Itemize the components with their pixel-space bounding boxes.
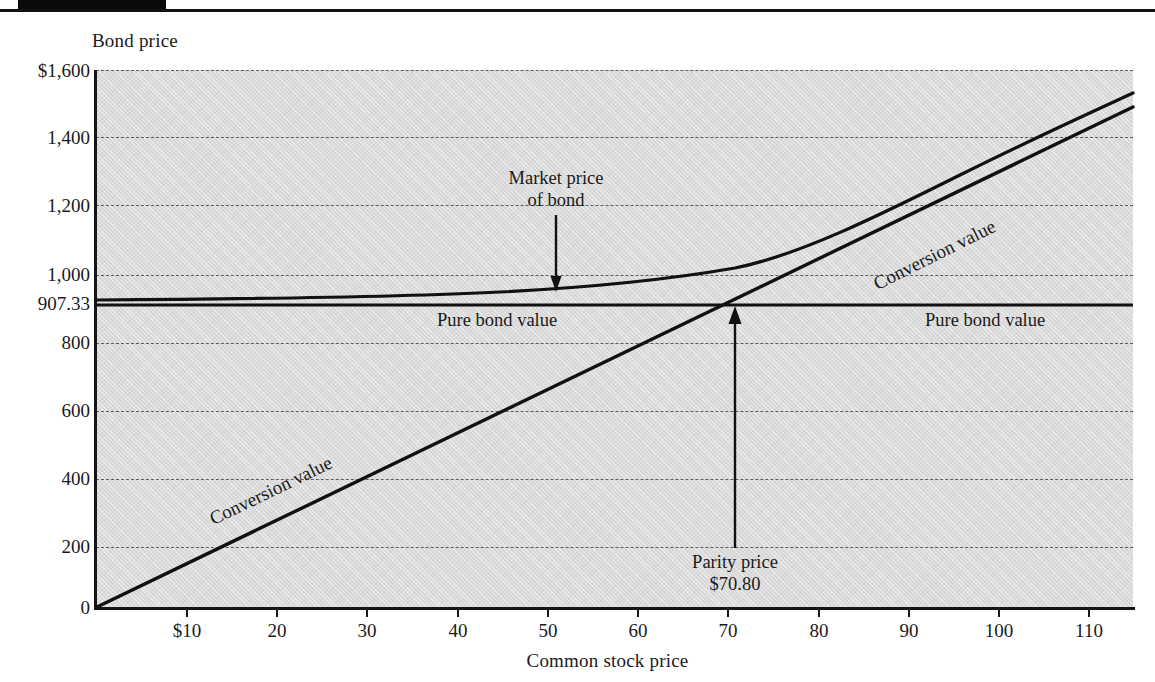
gridline-400 bbox=[96, 479, 1133, 480]
y-tick-label-600: 600 bbox=[4, 400, 90, 422]
x-tick-60 bbox=[637, 608, 639, 617]
x-tick-40 bbox=[457, 608, 459, 617]
gridline-1000 bbox=[96, 275, 1133, 276]
y-axis-title: Bond price bbox=[92, 30, 178, 52]
market-price-annotation-line1: Market price bbox=[486, 168, 626, 190]
x-tick-20 bbox=[276, 608, 278, 617]
x-tick-10 bbox=[186, 608, 188, 617]
y-axis-line bbox=[94, 70, 97, 610]
plot-area bbox=[96, 70, 1133, 608]
x-tick-label-60: 60 bbox=[608, 620, 668, 642]
y-tick-label-1200: 1,200 bbox=[4, 195, 90, 217]
x-axis-title-text: Common stock price bbox=[527, 650, 689, 671]
parity-price-annotation: Parity price $70.80 bbox=[664, 552, 806, 596]
x-tick-50 bbox=[547, 608, 549, 617]
x-tick-label-30: 30 bbox=[337, 620, 397, 642]
market-price-annotation: Market price of bond bbox=[486, 168, 626, 212]
y-tick-label-0: 0 bbox=[4, 597, 90, 619]
y-tick-label-800: 800 bbox=[4, 332, 90, 354]
x-tick-100 bbox=[998, 608, 1000, 617]
gridline-200 bbox=[96, 547, 1133, 548]
x-tick-90 bbox=[908, 608, 910, 617]
x-tick-label-20: 20 bbox=[247, 620, 307, 642]
pure-bond-value-label-right: Pure bond value bbox=[925, 310, 1045, 332]
x-tick-label-10: $10 bbox=[157, 620, 217, 642]
gridline-1600 bbox=[96, 70, 1133, 71]
x-tick-label-100: 100 bbox=[969, 620, 1029, 642]
y-tick-label-907-33: 907.33 bbox=[4, 293, 90, 315]
y-tick-label-1600: $1,600 bbox=[4, 60, 90, 82]
y-tick-label-1400: 1,400 bbox=[4, 127, 90, 149]
x-tick-80 bbox=[818, 608, 820, 617]
x-tick-110 bbox=[1088, 608, 1090, 617]
x-tick-label-80: 80 bbox=[789, 620, 849, 642]
market-price-annotation-line2: of bond bbox=[486, 190, 626, 212]
x-tick-30 bbox=[366, 608, 368, 617]
x-tick-70 bbox=[727, 608, 729, 617]
gridline-600 bbox=[96, 411, 1133, 412]
x-tick-label-40: 40 bbox=[428, 620, 488, 642]
pure-bond-value-label-left: Pure bond value bbox=[437, 310, 557, 332]
gridline-800 bbox=[96, 343, 1133, 344]
x-tick-label-90: 90 bbox=[879, 620, 939, 642]
y-tick-label-400: 400 bbox=[4, 468, 90, 490]
y-tick-label-1000: 1,000 bbox=[4, 264, 90, 286]
parity-price-annotation-line2: $70.80 bbox=[664, 574, 806, 596]
x-tick-label-110: 110 bbox=[1059, 620, 1119, 642]
bond-price-chart: Bond price $1,600 1,400 1,200 1,000 907.… bbox=[0, 0, 1155, 682]
x-axis-line bbox=[94, 607, 1135, 610]
x-tick-label-70: 70 bbox=[698, 620, 758, 642]
x-axis-title: Common stock price bbox=[0, 650, 1155, 672]
parity-price-annotation-line1: Parity price bbox=[664, 552, 806, 574]
x-tick-label-50: 50 bbox=[518, 620, 578, 642]
gridline-1400 bbox=[96, 137, 1133, 138]
y-tick-label-200: 200 bbox=[4, 536, 90, 558]
